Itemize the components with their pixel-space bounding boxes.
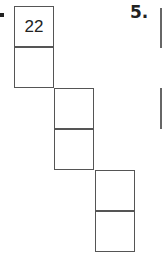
next-box-edge-1 bbox=[160, 8, 162, 48]
box-2 bbox=[14, 47, 54, 88]
box-6 bbox=[95, 211, 135, 252]
problem-number: 5. bbox=[130, 2, 148, 22]
previous-problem-marker bbox=[0, 13, 4, 17]
box-4 bbox=[54, 129, 94, 170]
box-3 bbox=[54, 88, 94, 129]
box-1: 22 bbox=[14, 6, 54, 47]
box-5 bbox=[95, 170, 135, 211]
next-box-edge-2 bbox=[160, 88, 162, 129]
